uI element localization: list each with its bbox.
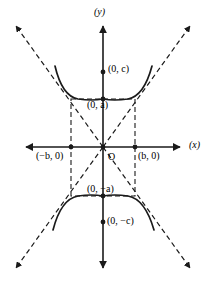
label-focus-lower: (0, −c) xyxy=(107,216,134,226)
point-origin xyxy=(101,145,106,150)
label-origin: O xyxy=(108,152,115,162)
label-vertex-lower: (0, −a) xyxy=(87,184,114,194)
label-vertex-upper: (0, a) xyxy=(87,100,108,110)
figure-canvas xyxy=(0,0,216,292)
label-co-vertex-right: (b, 0) xyxy=(138,151,160,161)
asymptote-upper-left xyxy=(16,26,103,147)
point-vertex-lower xyxy=(101,194,106,199)
label-focus-upper: (0, c) xyxy=(108,64,129,74)
asymptote-lower-right xyxy=(103,147,190,268)
label-co-vertex-left: (−b, 0) xyxy=(36,151,63,161)
asymptote-lower-left xyxy=(16,147,103,268)
point-focus-lower xyxy=(101,220,106,225)
asymptote-upper-right xyxy=(103,26,190,147)
y-axis-label: (y) xyxy=(94,7,105,17)
x-axis-label: (x) xyxy=(189,140,200,150)
point-co-vertex-right xyxy=(133,145,138,150)
hyperbola-figure: (y) (0, c) (0, a) (−b, 0) O (b, 0) (x) (… xyxy=(0,0,216,292)
point-co-vertex-left xyxy=(69,145,74,150)
point-focus-upper xyxy=(101,70,106,75)
